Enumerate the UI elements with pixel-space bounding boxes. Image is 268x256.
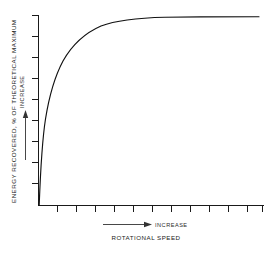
x-axis-title: ROTATIONAL SPEED: [111, 234, 180, 241]
energy-recovery-chart: INCREASE ENERGY RECOVERED, % OF THEORETI…: [0, 0, 268, 256]
x-axis-increase-arrow: [103, 222, 152, 227]
y-axis-increase-arrow: [23, 110, 28, 160]
data-curve-energy-recovered: [39, 17, 259, 205]
x-axis-increase-caption: INCREASE: [155, 222, 188, 228]
y-axis-ticks: [32, 16, 39, 184]
y-axis-title: ENERGY RECOVERED, % OF THEORETICAL MAXIM…: [10, 19, 17, 203]
y-axis-increase-caption: INCREASE: [19, 75, 25, 108]
x-axis-ticks: [58, 206, 263, 213]
chart-figure: INCREASE ENERGY RECOVERED, % OF THEORETI…: [0, 0, 268, 256]
